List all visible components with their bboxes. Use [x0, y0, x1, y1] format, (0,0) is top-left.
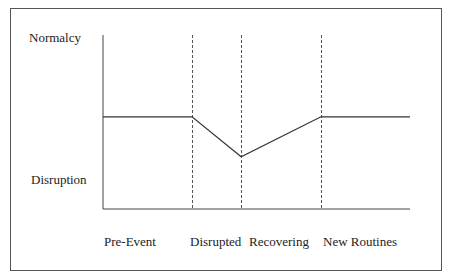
normalcy-chart [0, 0, 450, 279]
normalcy-series-line [103, 117, 410, 157]
